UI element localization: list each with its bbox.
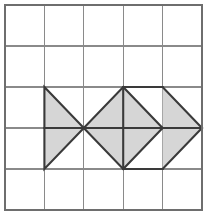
tangram-fish-diagram (0, 0, 207, 219)
figure-container (0, 0, 207, 219)
